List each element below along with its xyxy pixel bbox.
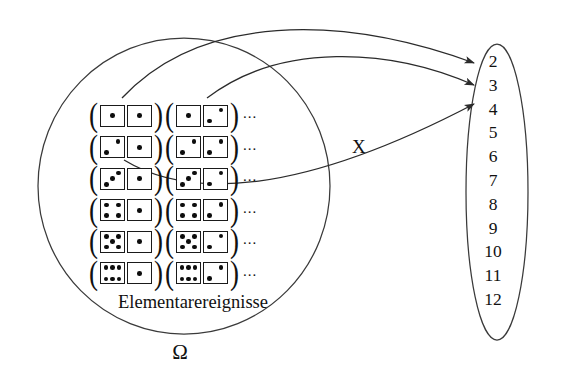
die-face-2 bbox=[203, 262, 228, 284]
random-variable-label: X bbox=[352, 136, 366, 158]
die-pip bbox=[219, 139, 224, 144]
die-pip bbox=[116, 234, 121, 239]
die-face-5 bbox=[176, 231, 201, 253]
die-pip bbox=[207, 119, 212, 124]
die-face-2 bbox=[100, 136, 125, 158]
die-pip bbox=[137, 113, 142, 118]
die-face-4 bbox=[100, 199, 125, 221]
value-item: 10 bbox=[470, 240, 516, 264]
die-pip bbox=[104, 277, 109, 282]
value-item: 3 bbox=[470, 74, 516, 98]
die-face-6 bbox=[100, 262, 125, 284]
elementary-events-grid: ()()...()()...()()...()()...()()...()().… bbox=[88, 100, 288, 289]
value-item: 8 bbox=[470, 193, 516, 217]
value-item: 5 bbox=[470, 121, 516, 145]
die-pip bbox=[192, 139, 197, 144]
die-pip bbox=[180, 182, 185, 187]
die-face-1 bbox=[127, 199, 152, 221]
die-pip bbox=[180, 150, 185, 155]
die-pip bbox=[116, 171, 121, 176]
row-ellipsis: ... bbox=[243, 264, 257, 283]
die-pip bbox=[117, 265, 122, 270]
close-paren: ) bbox=[154, 256, 163, 290]
omega-symbol: Ω bbox=[150, 340, 210, 365]
mapping-arrow-to-3 bbox=[207, 57, 474, 98]
row-ellipsis: ... bbox=[243, 138, 257, 157]
die-pip bbox=[207, 245, 212, 250]
die-pip bbox=[180, 245, 185, 250]
die-face-2 bbox=[203, 136, 228, 158]
die-face-2 bbox=[176, 136, 201, 158]
die-pip bbox=[137, 176, 142, 181]
value-item: 11 bbox=[470, 264, 516, 288]
die-pip bbox=[116, 139, 121, 144]
die-pip bbox=[192, 203, 197, 208]
die-pip bbox=[104, 150, 109, 155]
die-pip bbox=[192, 245, 197, 250]
die-pip bbox=[192, 171, 197, 176]
die-pip bbox=[207, 182, 212, 187]
die-face-1 bbox=[127, 231, 152, 253]
die-face-4 bbox=[176, 199, 201, 221]
die-face-1 bbox=[127, 136, 152, 158]
die-face-6 bbox=[176, 262, 201, 284]
die-pip bbox=[180, 265, 185, 270]
die-pip bbox=[219, 202, 224, 207]
die-pip bbox=[116, 213, 121, 218]
die-pip bbox=[116, 203, 121, 208]
die-face-2 bbox=[203, 231, 228, 253]
die-pip bbox=[137, 145, 142, 150]
row-ellipsis: ... bbox=[243, 201, 257, 220]
close-paren: ) bbox=[230, 256, 239, 290]
die-pip bbox=[180, 203, 185, 208]
die-pip bbox=[104, 182, 109, 187]
value-set-list: 23456789101112 bbox=[470, 50, 516, 312]
die-pip bbox=[193, 277, 198, 282]
die-pip bbox=[219, 171, 224, 176]
die-face-1 bbox=[127, 105, 152, 127]
die-pip bbox=[186, 265, 191, 270]
elementary-event-row: ()()... bbox=[88, 258, 288, 290]
die-face-3 bbox=[100, 168, 125, 190]
row-ellipsis: ... bbox=[243, 232, 257, 251]
die-face-2 bbox=[203, 105, 228, 127]
elementary-event-row: ()()... bbox=[88, 195, 288, 227]
die-pip bbox=[186, 176, 191, 181]
value-item: 6 bbox=[470, 145, 516, 169]
die-pip bbox=[104, 203, 109, 208]
diagram-canvas: ()()...()()...()()...()()...()()...()().… bbox=[0, 0, 566, 390]
open-paren: ( bbox=[165, 256, 174, 290]
die-pip bbox=[207, 150, 212, 155]
die-pip bbox=[186, 277, 191, 282]
die-face-3 bbox=[176, 168, 201, 190]
die-pip bbox=[104, 234, 109, 239]
die-face-1 bbox=[176, 105, 201, 127]
die-pip bbox=[110, 265, 115, 270]
row-ellipsis: ... bbox=[243, 106, 257, 125]
die-face-5 bbox=[100, 231, 125, 253]
value-item: 9 bbox=[470, 217, 516, 241]
value-item: 4 bbox=[470, 98, 516, 122]
sample-space-label: Elementarereignisse bbox=[88, 292, 298, 313]
die-face-1 bbox=[127, 262, 152, 284]
elementary-event-row: ()()... bbox=[88, 226, 288, 258]
die-face-2 bbox=[203, 199, 228, 221]
die-pip bbox=[186, 113, 191, 118]
die-pip bbox=[137, 271, 142, 276]
die-pip bbox=[137, 208, 142, 213]
die-pip bbox=[207, 276, 212, 281]
die-pip bbox=[110, 277, 115, 282]
die-pip bbox=[137, 239, 142, 244]
value-item: 7 bbox=[470, 169, 516, 193]
die-pip bbox=[192, 234, 197, 239]
die-pip bbox=[104, 265, 109, 270]
mapping-arrow-to-2 bbox=[122, 30, 474, 98]
elementary-event-row: ()()... bbox=[88, 163, 288, 195]
die-face-2 bbox=[203, 168, 228, 190]
die-pip bbox=[192, 213, 197, 218]
die-pip bbox=[219, 265, 224, 270]
die-pip bbox=[116, 245, 121, 250]
die-pip bbox=[104, 245, 109, 250]
die-pip bbox=[180, 234, 185, 239]
elementary-event-row: ()()... bbox=[88, 100, 288, 132]
